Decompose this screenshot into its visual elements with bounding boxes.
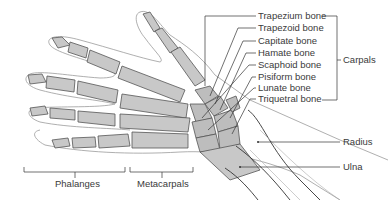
hand-bones-diagram: Trapezium bone Trapezoid bone Capitate b…: [0, 0, 388, 200]
label-lunate: Lunate bone: [258, 82, 311, 93]
carpal-labels: Trapezium bone Trapezoid bone Capitate b…: [258, 10, 326, 104]
label-ulna: Ulna: [343, 161, 363, 172]
label-capitate: Capitate bone: [258, 35, 317, 46]
label-metacarpals: Metacarpals: [137, 178, 189, 189]
label-scaphoid: Scaphoid bone: [258, 59, 321, 70]
carpal-bones: [190, 86, 240, 152]
little-finger-bones: [52, 132, 188, 148]
label-phalanges: Phalanges: [55, 178, 100, 189]
label-triquetral: Triquetral bone: [258, 93, 322, 104]
label-radius: Radius: [343, 136, 373, 147]
index-finger-bones: [52, 37, 185, 102]
thumb-bones: [143, 12, 205, 86]
label-hamate: Hamate bone: [258, 47, 315, 58]
label-pisiform: Pisiform bone: [258, 71, 316, 82]
label-carpals: Carpals: [343, 54, 376, 65]
label-trapezium: Trapezium bone: [258, 10, 326, 21]
label-trapezoid: Trapezoid bone: [258, 22, 324, 33]
